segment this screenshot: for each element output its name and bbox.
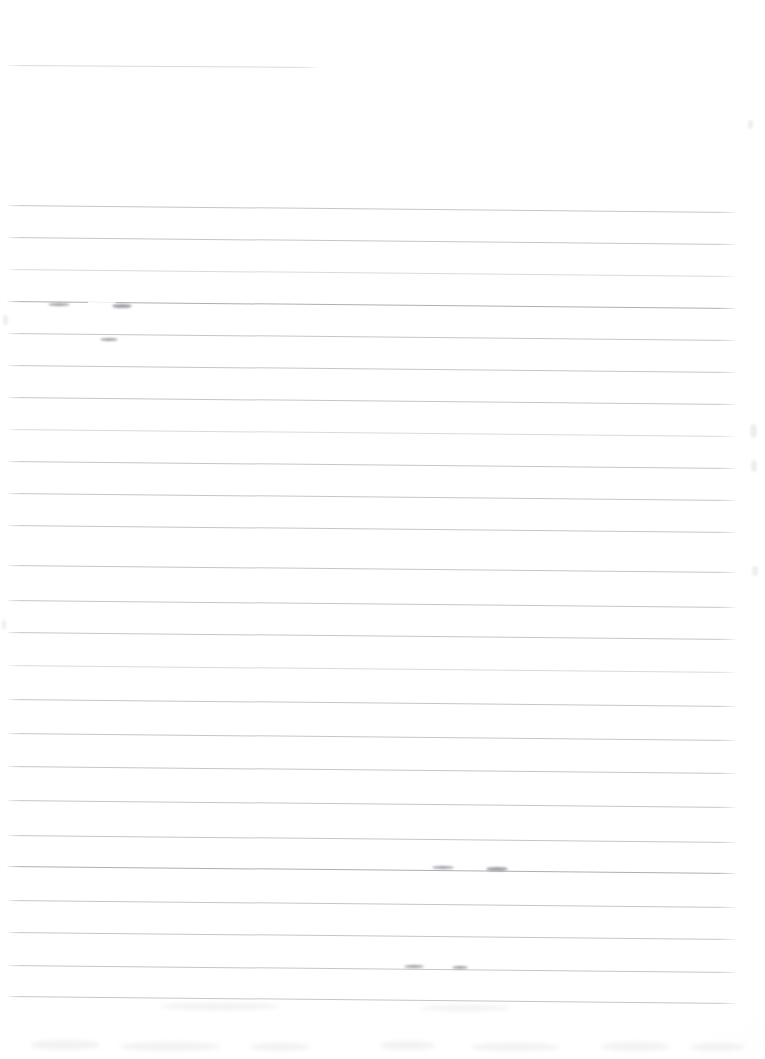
- scan-smudge: [600, 1042, 670, 1051]
- pencil-mark: [48, 303, 70, 306]
- pencil-mark: [404, 965, 424, 968]
- ruled-line: [7, 269, 735, 277]
- scan-smudge: [250, 1043, 310, 1051]
- scan-smudge: [120, 1042, 220, 1051]
- ruled-line: [7, 493, 735, 501]
- pencil-mark: [452, 966, 468, 969]
- ruled-line: [7, 733, 735, 741]
- scan-smudge: [30, 1040, 100, 1050]
- ruled-line: [7, 900, 735, 908]
- ruled-line: [7, 632, 735, 640]
- ruled-line: [7, 699, 735, 707]
- pencil-mark: [112, 304, 132, 308]
- pencil-mark: [100, 338, 118, 341]
- ruled-line: [7, 766, 735, 774]
- ruled-line: [7, 525, 735, 533]
- ruled-line: [7, 996, 735, 1004]
- pencil-mark: [486, 867, 508, 871]
- rule-gap: [428, 964, 450, 967]
- scan-speckle: [752, 566, 758, 576]
- scanned-page: [0, 0, 765, 1059]
- ruled-line: [7, 461, 735, 469]
- scan-speckle: [751, 460, 757, 472]
- pencil-mark: [432, 866, 454, 869]
- ruled-line: [7, 565, 735, 573]
- ruled-line: [7, 397, 735, 405]
- scan-smudge: [470, 1043, 560, 1051]
- ruled-line: [7, 835, 735, 843]
- scan-speckle: [2, 620, 6, 629]
- ruled-line: [7, 665, 735, 673]
- ruled-line: [7, 600, 735, 608]
- ruled-line: [7, 365, 735, 373]
- scan-smudge: [420, 1005, 510, 1011]
- scan-smudge: [160, 1003, 280, 1010]
- ruled-line: [7, 429, 735, 437]
- scan-speckle: [3, 315, 8, 325]
- ruled-line: [7, 932, 735, 940]
- ruled-line: [7, 237, 735, 245]
- scan-smudge: [690, 1043, 745, 1051]
- header-rule: [8, 65, 316, 68]
- ruled-line: [7, 800, 735, 808]
- scan-speckle: [748, 120, 753, 129]
- ruled-line: [7, 866, 735, 874]
- ruled-line: [7, 205, 735, 213]
- scan-smudge: [380, 1041, 435, 1050]
- ruled-line: [7, 965, 735, 973]
- scan-speckle: [750, 424, 757, 438]
